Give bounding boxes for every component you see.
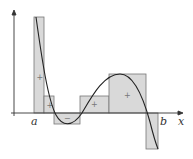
sign-1: + (37, 73, 44, 82)
label-a: a (31, 115, 38, 128)
sign-4: + (91, 100, 98, 109)
sign-5: + (124, 91, 131, 100)
riemann-rectangles (34, 17, 158, 149)
rectangle-1 (34, 17, 44, 113)
riemann-sum-diagram: + + − + + a b x (0, 0, 193, 159)
label-x-axis: x (178, 115, 185, 128)
y-axis-arrow-icon (12, 10, 16, 15)
sign-3: − (64, 114, 71, 123)
label-b: b (160, 115, 167, 128)
